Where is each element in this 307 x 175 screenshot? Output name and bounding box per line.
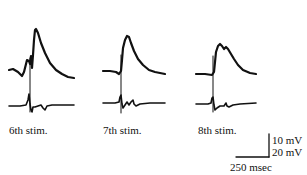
scale-label-250msec: 250 msec <box>230 161 272 173</box>
panel-6th-stim-traces <box>9 29 74 112</box>
panel-label-7th-stim: 7th stim. <box>103 124 142 136</box>
lower-trace-6th <box>9 94 74 112</box>
scale-label-20mv: 20 mV <box>272 146 302 158</box>
scale-bar <box>236 134 269 157</box>
lower-trace-8th <box>196 97 256 110</box>
panel-7th-stim-traces <box>103 36 165 113</box>
upper-trace-7th <box>103 36 165 74</box>
upper-trace-6th <box>9 29 74 78</box>
upper-trace-8th <box>196 44 256 75</box>
scale-label-10mv: 10 mV <box>272 134 302 146</box>
panel-8th-stim-traces <box>196 44 256 112</box>
traces-canvas <box>0 0 307 175</box>
panel-label-8th-stim: 8th stim. <box>198 124 237 136</box>
lower-trace-7th <box>103 95 165 108</box>
panel-label-6th-stim: 6th stim. <box>9 124 48 136</box>
electrophysiology-figure: 6th stim. 7th stim. 8th stim. 10 mV 20 m… <box>0 0 307 175</box>
